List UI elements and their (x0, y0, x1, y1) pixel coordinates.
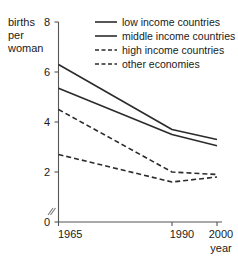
x-tick-label-1965: 1965 (58, 228, 82, 240)
fertility-line-chart: 8 6 4 2 0 1965 1990 2000 year births per… (0, 0, 238, 270)
legend-item-low-income: low income countries (95, 16, 220, 28)
legend-label-other-economies: other economies (122, 58, 200, 70)
y-tick-label-8: 8 (44, 16, 50, 28)
x-tick-label-1990: 1990 (170, 228, 194, 240)
y-tick-label-4: 4 (44, 116, 50, 128)
x-axis-title: year (210, 242, 232, 254)
legend-item-other-economies: other economies (95, 58, 200, 70)
legend: low income countries middle income count… (95, 16, 235, 70)
y-tick-label-0: 0 (44, 216, 50, 228)
series-line-other-economies (59, 155, 218, 183)
legend-item-middle-income: middle income countries (95, 30, 235, 42)
axis-break-mark (48, 208, 56, 215)
y-axis-title-line-2: per (8, 29, 24, 41)
series-line-high-income (59, 110, 218, 175)
y-tick-label-2: 2 (44, 166, 50, 178)
chart-canvas: 8 6 4 2 0 1965 1990 2000 year births per… (0, 0, 238, 270)
legend-label-low-income: low income countries (122, 16, 220, 28)
series-line-middle-income (59, 88, 218, 146)
y-tick-label-6: 6 (44, 66, 50, 78)
legend-label-middle-income: middle income countries (122, 30, 235, 42)
y-axis-title-line-3: woman (7, 42, 43, 54)
x-tick-label-2000: 2000 (209, 228, 233, 240)
legend-item-high-income: high income countries (95, 44, 224, 56)
legend-label-high-income: high income countries (122, 44, 224, 56)
y-axis-title-line-1: births (8, 16, 35, 28)
series-line-low-income (59, 65, 218, 140)
